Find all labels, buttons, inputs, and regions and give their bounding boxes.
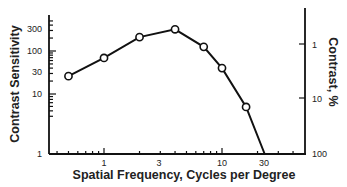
right-tick-label-100: 100 bbox=[312, 149, 327, 159]
data-point bbox=[100, 54, 107, 61]
data-markers bbox=[65, 26, 250, 111]
data-point bbox=[65, 73, 72, 80]
x-tick-label-1: 1 bbox=[101, 158, 106, 168]
y-tick-label-100: 100 bbox=[27, 46, 42, 56]
data-point bbox=[136, 34, 143, 41]
y-tick-label-10: 10 bbox=[32, 89, 42, 99]
right-tick-label-10: 10 bbox=[312, 94, 322, 104]
contrast-sensitivity-chart: 300 100 30 10 1 1 3 10 30 1 10 100 Spati… bbox=[0, 0, 347, 187]
y-tick-label-300: 300 bbox=[27, 24, 42, 34]
data-point bbox=[242, 103, 249, 110]
y-tick-label-1: 1 bbox=[37, 149, 42, 159]
data-point bbox=[218, 65, 225, 72]
left-y-ticks bbox=[49, 21, 56, 116]
y-axis-title: Contrast Sensitivity bbox=[8, 25, 22, 142]
x-tick-label-30: 30 bbox=[259, 158, 269, 168]
y-tick-label-30: 30 bbox=[32, 67, 42, 77]
data-point bbox=[200, 43, 207, 50]
right-y-axis-title: Contrast, % bbox=[326, 37, 340, 106]
x-tick-label-3: 3 bbox=[156, 158, 161, 168]
x-axis-title: Spatial Frequency, Cycles per Degree bbox=[73, 168, 296, 182]
x-ticks bbox=[57, 148, 293, 154]
x-tick-label-10: 10 bbox=[217, 158, 227, 168]
sensitivity-line bbox=[68, 29, 264, 154]
right-tick-label-1: 1 bbox=[312, 40, 317, 50]
data-point bbox=[171, 26, 178, 33]
